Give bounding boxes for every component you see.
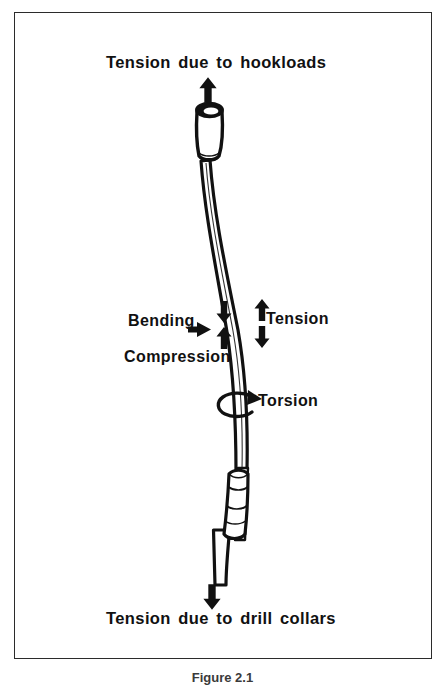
label-tension: Tension bbox=[266, 311, 329, 327]
label-tension-drill-collars: Tension due to drill collars bbox=[106, 610, 336, 627]
label-bending: Bending bbox=[128, 313, 195, 329]
label-compression: Compression bbox=[124, 349, 231, 365]
figure-caption: Figure 2.1 bbox=[0, 670, 445, 685]
label-torsion: Torsion bbox=[258, 393, 318, 409]
label-tension-hookloads: Tension due to hookloads bbox=[106, 54, 326, 71]
figure-border bbox=[14, 12, 432, 659]
